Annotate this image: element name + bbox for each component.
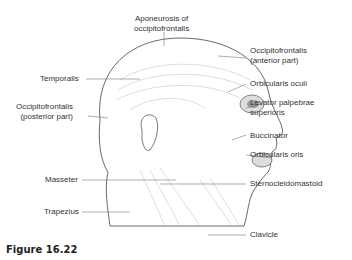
label-levator-palpebrae: Levator palpebrae superioris	[250, 98, 315, 118]
label-aponeurosis-line2: occipitofrontalis	[134, 24, 189, 34]
label-levator-line2: superioris	[250, 108, 315, 118]
label-aponeurosis: Aponeurosis of occipitofrontalis	[134, 14, 189, 34]
label-sternocleidomastoid: Sternocleidomastoid	[250, 179, 322, 189]
label-occ-anterior-line1: Occipitofrontalis	[250, 46, 307, 56]
head-muscles-illustration	[0, 0, 352, 260]
label-masseter: Masseter	[45, 175, 78, 185]
label-trapezius: Trapezius	[44, 207, 79, 217]
figure-caption: Figure 16.22	[6, 244, 77, 255]
label-orbicularis-oculi: Orbicularis oculi	[250, 79, 307, 89]
label-occ-anterior-line2: (anterior part)	[250, 56, 307, 66]
label-temporalis: Temporalis	[40, 74, 79, 84]
label-clavicle: Clavicle	[250, 230, 278, 240]
label-occ-posterior-line2: (posterior part)	[16, 112, 73, 122]
label-aponeurosis-line1: Aponeurosis of	[134, 14, 189, 24]
label-orbicularis-oris: Orbicularis oris	[250, 150, 303, 160]
label-occipitofrontalis-anterior: Occipitofrontalis (anterior part)	[250, 46, 307, 66]
label-buccinator: Buccinator	[250, 131, 288, 141]
label-levator-line1: Levator palpebrae	[250, 98, 315, 108]
label-occ-posterior-line1: Occipitofrontalis	[16, 102, 73, 112]
label-occipitofrontalis-posterior: Occipitofrontalis (posterior part)	[16, 102, 73, 122]
